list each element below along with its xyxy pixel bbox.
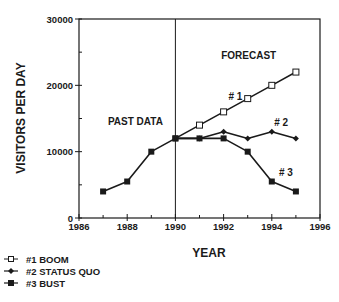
legend-item-boom: #1 BOOM	[4, 253, 100, 265]
filled-square-marker	[172, 135, 178, 141]
data-markers	[100, 69, 299, 194]
annotation-label: # 1	[228, 91, 242, 102]
legend: #1 BOOM #2 STATUS QUO #3 BUST	[4, 253, 100, 289]
filled-square-marker	[100, 188, 106, 194]
legend-item-bust: #3 BUST	[4, 277, 100, 289]
filled-square-marker	[221, 135, 227, 141]
x-tick-label: 1994	[261, 221, 283, 232]
legend-label: #2 STATUS QUO	[26, 266, 100, 277]
legend-label: #3 BUST	[26, 278, 65, 289]
filled-square-marker	[124, 179, 130, 185]
series-line-3	[175, 138, 296, 191]
filled-square-marker	[245, 149, 251, 155]
x-axis-title: YEAR	[192, 246, 226, 260]
annotation-label: # 3	[279, 167, 293, 178]
annotations: PAST DATAFORECAST# 1# 2# 3	[108, 50, 293, 178]
legend-item-status-quo: #2 STATUS QUO	[4, 265, 100, 277]
past-data-line	[103, 138, 175, 191]
y-tick-label: 30000	[47, 14, 73, 25]
diamond-marker	[293, 135, 299, 141]
open-square-marker-icon	[4, 254, 18, 264]
y-axis-title: VISITORS PER DAY	[14, 62, 28, 173]
x-tick-label: 1992	[213, 221, 234, 232]
diamond-marker-icon	[4, 266, 18, 276]
x-tick-label: 1990	[165, 221, 186, 232]
filled-square-marker-icon	[4, 278, 18, 288]
y-tick-label: 0	[68, 213, 73, 224]
filled-square-marker	[269, 179, 275, 185]
legend-label: #1 BOOM	[26, 254, 69, 265]
annotation-label: PAST DATA	[108, 116, 163, 127]
y-tick-label: 10000	[47, 146, 73, 157]
open-square-marker	[221, 109, 227, 115]
x-tick-label: 1988	[117, 221, 138, 232]
filled-square-marker	[293, 188, 299, 194]
series-line-1	[175, 72, 296, 138]
open-square-marker	[269, 82, 275, 88]
open-square-marker	[197, 122, 203, 128]
diamond-marker	[245, 135, 251, 141]
diamond-marker	[221, 129, 227, 135]
filled-square-marker	[148, 149, 154, 155]
series-line-2	[175, 132, 296, 139]
open-square-marker	[245, 96, 251, 102]
annotation-label: FORECAST	[221, 50, 276, 61]
y-tick-label: 20000	[47, 80, 73, 91]
x-tick-label: 1996	[309, 221, 330, 232]
open-square-marker	[293, 69, 299, 75]
diamond-marker	[269, 129, 275, 135]
annotation-label: # 2	[274, 117, 288, 128]
data-lines	[103, 72, 296, 191]
